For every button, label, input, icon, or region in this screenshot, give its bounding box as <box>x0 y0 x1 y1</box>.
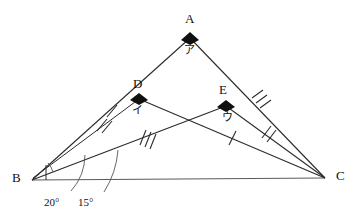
vertex-markers-group <box>130 32 235 112</box>
kana-label-u: ウ <box>222 112 233 123</box>
vertex-label-d: D <box>133 77 142 90</box>
figure-canvas <box>0 0 360 221</box>
vertex-label-e: E <box>219 83 227 96</box>
angle-label-20: 20° <box>44 197 59 208</box>
angle-arc-15 <box>104 150 118 192</box>
angle-label-15: 15° <box>78 197 93 208</box>
edges-group <box>32 38 325 180</box>
segment-b-e <box>32 106 226 180</box>
geometry-figure: A B C D E ア イ ウ 20° 15° <box>0 0 360 221</box>
vertex-label-a: A <box>185 12 194 25</box>
vertex-label-c: C <box>336 169 345 182</box>
segment-a-c <box>190 38 325 178</box>
segment-b-d-inner <box>33 99 139 178</box>
segment-b-a <box>32 38 190 180</box>
vertex-label-b: B <box>12 171 21 184</box>
kana-label-a: ア <box>184 45 195 56</box>
kana-label-i: イ <box>132 105 143 116</box>
tick-be-triple <box>140 130 156 149</box>
segment-b-c <box>32 178 325 180</box>
